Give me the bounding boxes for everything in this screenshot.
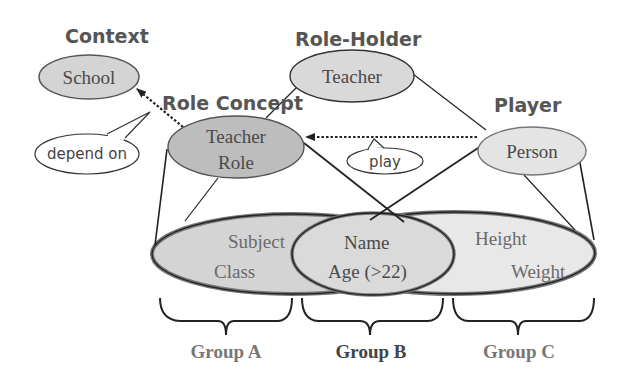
- heading-player: Player: [494, 94, 562, 116]
- heading-context: Context: [65, 25, 149, 47]
- svg-text:depend on: depend on: [47, 145, 127, 163]
- svg-text:Role: Role: [218, 152, 254, 173]
- attribute-sets: [152, 212, 595, 295]
- node-school: School: [39, 55, 139, 99]
- svg-text:Teacher: Teacher: [322, 66, 383, 87]
- callout-depend-on: depend on: [35, 112, 150, 174]
- label-group-a: Group A: [191, 341, 262, 362]
- svg-text:School: School: [63, 67, 116, 88]
- group-braces: [160, 298, 594, 335]
- svg-text:Person: Person: [506, 141, 558, 162]
- label-group-c: Group C: [483, 341, 555, 362]
- heading-role-holder: Role-Holder: [295, 28, 422, 50]
- svg-text:Teacher: Teacher: [206, 126, 267, 147]
- brace-group-c: [453, 298, 594, 335]
- attribute-class: Class: [214, 261, 255, 282]
- node-teacher-role: Teacher Role: [168, 116, 304, 178]
- label-group-b: Group B: [336, 341, 407, 362]
- attribute-age: Age (>22): [328, 261, 407, 283]
- brace-group-a: [160, 298, 292, 335]
- attribute-name: Name: [344, 232, 389, 253]
- brace-group-b: [302, 298, 443, 335]
- heading-role-concept: Role Concept: [162, 92, 303, 114]
- callout-play: play: [347, 139, 423, 174]
- attribute-subject: Subject: [228, 231, 286, 252]
- svg-text:play: play: [369, 153, 401, 171]
- node-teacher: Teacher: [290, 50, 414, 102]
- node-person: Person: [478, 127, 586, 175]
- role-model-diagram: Context Role-Holder Role Concept Player …: [0, 0, 640, 385]
- attribute-weight: Weight: [511, 261, 566, 282]
- attribute-height: Height: [475, 228, 527, 249]
